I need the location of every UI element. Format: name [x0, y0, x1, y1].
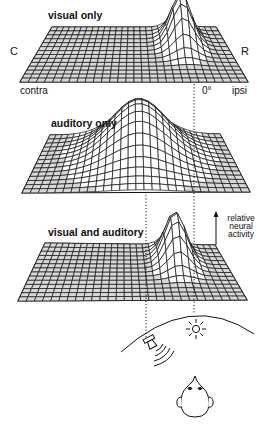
- mesh-cell: [105, 55, 113, 59]
- mesh-cell: [85, 252, 92, 256]
- mesh-cell: [94, 43, 101, 47]
- mesh-cell: [109, 284, 117, 288]
- mesh-cell: [116, 288, 124, 292]
- mesh-cell: [128, 27, 134, 31]
- mesh-cell: [140, 35, 147, 39]
- mesh-cell: [93, 47, 101, 51]
- mesh-cell: [128, 35, 134, 39]
- mesh-cell: [88, 181, 97, 187]
- mesh-cell: [128, 184, 136, 191]
- mesh-cell: [79, 70, 88, 74]
- mesh-cell: [134, 35, 140, 39]
- mesh-cell: [109, 280, 117, 284]
- mesh-cell: [180, 70, 189, 74]
- zero-degree-label: 0°: [202, 86, 212, 96]
- mesh-cell: [136, 244, 143, 248]
- mesh-cell: [112, 177, 120, 185]
- mesh-cell: [97, 62, 105, 66]
- mesh-cell: [135, 100, 142, 104]
- mesh-cell: [122, 27, 128, 31]
- mesh-cell: [68, 293, 77, 297]
- mesh-cell: [92, 51, 100, 55]
- mesh-cell: [104, 179, 112, 186]
- mesh-cell: [103, 66, 111, 70]
- mesh-cell: [136, 167, 144, 176]
- mesh-cell: [52, 293, 61, 297]
- mesh-cell: [126, 66, 134, 70]
- mesh-cell: [62, 284, 71, 288]
- mesh-cell: [127, 51, 134, 55]
- mesh-cell: [100, 47, 108, 51]
- mesh-cell: [120, 158, 128, 169]
- mesh-cell: [83, 58, 91, 62]
- mesh-cell: [139, 276, 147, 280]
- mesh-cell: [131, 272, 138, 276]
- mesh-cell: [134, 39, 141, 43]
- mesh-cell: [102, 276, 110, 280]
- mesh-cell: [97, 31, 104, 35]
- mesh-cell: [110, 264, 117, 268]
- mesh-cell: [72, 183, 81, 188]
- mesh-cell: [81, 272, 89, 276]
- mesh-cell: [149, 66, 157, 70]
- mesh-cell: [138, 272, 146, 276]
- mesh-cell: [150, 78, 158, 82]
- mesh-cell: [110, 74, 118, 78]
- mesh-cell: [117, 272, 124, 276]
- mesh-cell: [127, 47, 134, 51]
- mesh-cell: [120, 168, 128, 178]
- mesh-cell: [140, 292, 148, 296]
- mesh-cell: [141, 62, 149, 66]
- mesh-cell: [143, 133, 151, 146]
- mesh-cell: [159, 177, 168, 185]
- mesh-cell: [128, 31, 134, 35]
- mesh-cell: [100, 297, 108, 301]
- mesh-cell: [142, 70, 150, 74]
- mesh-cell: [127, 62, 135, 66]
- mesh-cell: [111, 70, 119, 74]
- mesh-cell: [160, 184, 169, 190]
- mesh-cell: [118, 74, 126, 78]
- mesh-cell: [115, 39, 122, 43]
- mesh-cell: [174, 78, 183, 82]
- mesh-cell: [182, 78, 191, 82]
- mesh-cell: [101, 43, 108, 47]
- mesh-cell: [124, 284, 132, 288]
- mesh-cell: [124, 276, 131, 280]
- mesh-cell: [118, 70, 126, 74]
- mesh-cell: [83, 297, 92, 301]
- mesh-cell: [137, 256, 144, 260]
- mesh-cell: [134, 66, 142, 70]
- mesh-cell: [128, 176, 136, 184]
- mesh-cell: [136, 157, 144, 167]
- mesh-cell: [151, 168, 159, 177]
- mesh-cell: [141, 58, 149, 62]
- annotation-line-3: activity: [220, 230, 262, 238]
- rostral-label: R: [241, 46, 249, 57]
- mesh-cell: [82, 264, 90, 268]
- mesh-cell: [111, 252, 118, 256]
- mesh-cell: [104, 62, 112, 66]
- mesh-cell: [124, 256, 131, 260]
- mesh-cell: [143, 121, 151, 134]
- relative-neural-activity-label: relative neural activity: [220, 214, 262, 238]
- mesh-cell: [116, 27, 122, 31]
- speaker-sound-icon: [143, 335, 174, 366]
- sun-light-icon: [186, 319, 206, 339]
- mesh-cell: [89, 268, 97, 272]
- contra-axis-label: contra: [20, 86, 48, 96]
- mesh-cell: [61, 289, 70, 293]
- mesh-cell: [159, 169, 167, 178]
- mesh-cell: [166, 78, 175, 82]
- mesh-cell: [134, 47, 141, 51]
- mesh-cell: [103, 185, 112, 191]
- mesh-cell: [140, 39, 147, 43]
- mesh-cell: [157, 74, 166, 78]
- mesh-cell: [104, 27, 111, 31]
- mesh-cell: [111, 66, 119, 70]
- mesh-cell: [103, 70, 111, 74]
- mesh-cell: [102, 35, 109, 39]
- mesh-cell: [94, 74, 103, 78]
- mesh-cell: [143, 157, 151, 168]
- mesh-cell: [155, 288, 164, 292]
